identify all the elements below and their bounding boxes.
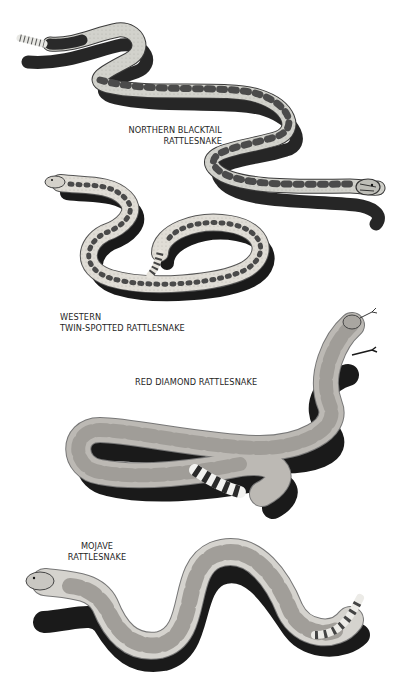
label-line: NORTHERN BLACKTAIL <box>92 125 222 136</box>
label-line: WESTERN <box>60 312 185 323</box>
label-line: RATTLESNAKE <box>92 136 222 147</box>
northern-blacktail-label: NORTHERN BLACKTAIL RATTLESNAKE <box>92 125 222 146</box>
rattlesnake-illustration-plate <box>0 0 403 677</box>
red-diamond-label: RED DIAMOND RATTLESNAKE <box>135 377 257 388</box>
label-line: RED DIAMOND RATTLESNAKE <box>135 377 257 388</box>
mojave-rattlesnake-figure <box>26 552 360 661</box>
mojave-label: MOJAVE RATTLESNAKE <box>62 541 132 562</box>
label-line: RATTLESNAKE <box>62 552 132 563</box>
label-line: TWIN-SPOTTED RATTLESNAKE <box>60 323 185 334</box>
red-diamond-rattlesnake-figure <box>78 308 377 508</box>
western-twin-spotted-label: WESTERN TWIN-SPOTTED RATTLESNAKE <box>60 312 185 333</box>
label-line: MOJAVE <box>62 541 132 552</box>
